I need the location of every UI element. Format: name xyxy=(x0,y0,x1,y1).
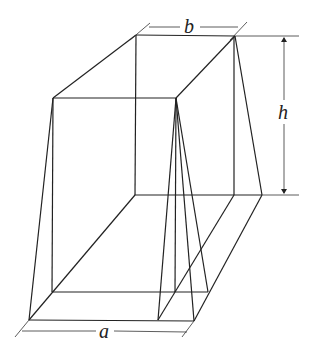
dimension-a: a xyxy=(15,320,194,342)
geometry-diagram: b h a xyxy=(0,0,319,356)
label-a: a xyxy=(99,320,109,342)
dimension-h: h xyxy=(235,36,299,195)
label-b: b xyxy=(184,15,194,37)
label-h: h xyxy=(278,101,288,123)
solid-edges xyxy=(29,35,262,321)
